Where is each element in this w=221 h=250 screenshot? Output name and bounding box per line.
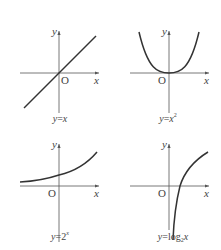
x-axis-label: x	[93, 187, 99, 199]
origin-label: O	[158, 74, 166, 86]
origin-label: O	[48, 187, 56, 199]
curve-y-equals-x	[24, 36, 96, 108]
y-axis-label: y	[161, 25, 167, 37]
origin-label: O	[158, 187, 166, 199]
caption-linear: y=x	[52, 113, 68, 124]
y-axis-label: y	[51, 138, 57, 150]
curve-logarithm	[173, 152, 208, 240]
caption-exponential: y=2x	[50, 230, 69, 242]
panel-linear: y x O y=x	[20, 25, 99, 124]
caption-logarithm: y=log2x	[157, 231, 189, 243]
x-axis-label: x	[93, 74, 99, 86]
caption-quadratic: y=x2	[158, 112, 177, 124]
panel-exponential: y x O y=2x	[20, 138, 99, 242]
curve-exponential	[20, 152, 97, 182]
x-axis-label: x	[203, 187, 209, 199]
x-axis-label: x	[203, 74, 209, 86]
y-axis-label: y	[51, 25, 57, 37]
function-graphs-diagram: y x O y=x y x O y=x2 y x O y=2x y x	[0, 0, 221, 250]
panel-quadratic: y x O y=x2	[130, 25, 209, 124]
panel-logarithm: y x O y=log2x	[130, 138, 209, 243]
origin-label: O	[61, 74, 69, 86]
y-axis-label: y	[161, 138, 167, 150]
